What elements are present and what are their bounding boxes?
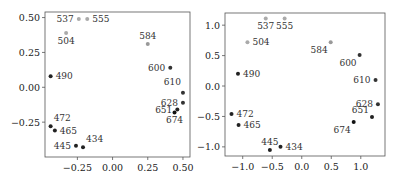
point-label-434: 434 — [285, 142, 302, 152]
data-point-537 — [264, 16, 268, 20]
point-label-674: 674 — [334, 125, 351, 135]
data-point-610 — [181, 91, 185, 95]
x-tick-label: −1.0 — [231, 161, 254, 172]
data-point-472 — [49, 124, 53, 128]
point-label-600: 600 — [339, 58, 356, 68]
x-tick-label: 0.00 — [102, 162, 123, 173]
point-label-600: 600 — [148, 63, 165, 73]
point-label-610: 610 — [164, 77, 181, 87]
data-point-674 — [352, 120, 356, 124]
point-label-537: 537 — [57, 14, 74, 24]
data-point-600 — [358, 53, 362, 57]
data-point-445 — [74, 144, 78, 148]
data-point-490 — [49, 74, 53, 78]
y-tick-label: −1.0 — [197, 141, 220, 152]
x-tick-label: 0.25 — [137, 162, 158, 173]
data-point-555 — [283, 16, 287, 20]
point-label-490: 490 — [243, 69, 260, 79]
point-label-584: 584 — [310, 45, 327, 55]
point-label-465: 465 — [60, 126, 77, 136]
y-tick-label: 1.0 — [205, 20, 220, 31]
y-tick-label: 0.50 — [19, 12, 40, 23]
data-point-584 — [329, 40, 333, 44]
point-label-584: 584 — [139, 31, 156, 41]
x-tick-label: 0.50 — [172, 162, 193, 173]
y-tick-label: 0.00 — [19, 82, 40, 93]
y-tick-label: −0.5 — [197, 111, 220, 122]
data-point-445 — [268, 148, 272, 152]
x-tick-label: −0.5 — [261, 161, 284, 172]
y-tick-label: 0.0 — [205, 81, 220, 92]
data-point-651 — [370, 115, 374, 119]
data-point-610 — [374, 78, 378, 82]
data-point-434 — [81, 145, 85, 149]
data-point-434 — [278, 145, 282, 149]
data-point-490 — [236, 72, 240, 76]
point-label-504: 504 — [252, 37, 269, 47]
x-tick-label: −0.25 — [63, 162, 92, 173]
data-point-600 — [168, 66, 172, 70]
data-point-504 — [245, 40, 249, 44]
point-label-445: 445 — [54, 141, 71, 151]
data-point-465 — [237, 123, 241, 127]
point-label-610: 610 — [353, 75, 370, 85]
y-tick-label: 0.5 — [205, 50, 220, 61]
point-label-555: 555 — [92, 14, 109, 24]
data-point-537 — [77, 17, 81, 21]
data-point-465 — [53, 129, 57, 133]
point-label-504: 504 — [58, 36, 75, 46]
data-point-628 — [376, 102, 380, 106]
point-label-472: 472 — [236, 109, 253, 119]
point-label-472: 472 — [54, 113, 71, 123]
chart-figure: −0.250.000.250.50−0.250.000.250.50434445… — [0, 0, 405, 180]
left-scatter-panel: −0.250.000.250.50−0.250.000.250.50434445… — [11, 12, 194, 173]
point-label-490: 490 — [56, 71, 73, 81]
data-point-674 — [173, 110, 177, 114]
point-label-555: 555 — [276, 21, 293, 31]
x-tick-label: 0.5 — [324, 161, 339, 172]
point-label-445: 445 — [261, 137, 278, 147]
point-label-651: 651 — [352, 105, 369, 115]
data-point-555 — [85, 17, 89, 21]
y-tick-label: 0.25 — [19, 47, 40, 58]
point-label-651: 651 — [155, 105, 172, 115]
point-label-434: 434 — [86, 134, 103, 144]
x-tick-label: 0.0 — [294, 161, 309, 172]
data-point-628 — [181, 101, 185, 105]
data-point-584 — [146, 42, 150, 46]
y-tick-label: −0.25 — [11, 117, 40, 128]
point-label-537: 537 — [257, 21, 274, 31]
right-scatter-panel: −1.0−0.50.00.51.0−1.0−0.50.00.51.0434445… — [197, 13, 385, 172]
data-point-504 — [64, 31, 68, 35]
point-label-674: 674 — [166, 115, 183, 125]
data-point-472 — [229, 112, 233, 116]
x-tick-label: 1.0 — [353, 161, 368, 172]
point-label-465: 465 — [244, 120, 261, 130]
